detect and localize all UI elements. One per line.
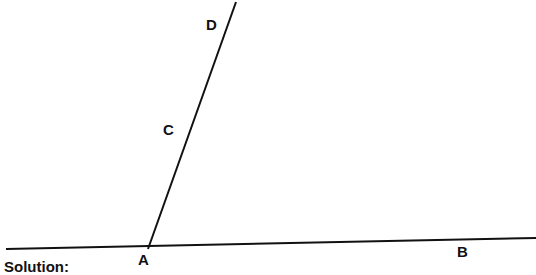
geometry-figure <box>0 0 536 275</box>
ray-acd <box>148 2 236 249</box>
point-label-b: B <box>457 243 468 260</box>
solution-label: Solution: <box>4 258 69 275</box>
point-label-a: A <box>138 251 149 268</box>
point-label-d: D <box>206 16 217 33</box>
point-label-c: C <box>163 121 174 138</box>
